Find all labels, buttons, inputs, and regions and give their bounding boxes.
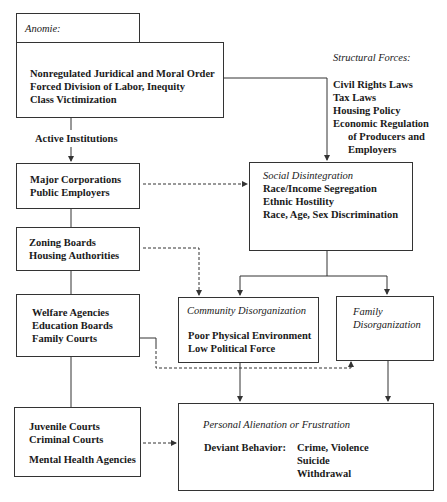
institution-lines: Welfare Agencies Education Boards Family…: [32, 306, 113, 345]
deviant-behavior-list: Crime, Violence Suicide Withdrawal: [297, 441, 369, 480]
personal-alienation-box: Personal Alienation or Frustration Devia…: [178, 403, 434, 491]
structural-force-item: Civil Rights Laws: [333, 78, 429, 91]
social-disintegration-item: Race, Age, Sex Discrimination: [263, 208, 398, 221]
structural-forces-list: Civil Rights Laws Tax Laws Housing Polic…: [333, 78, 429, 156]
social-disintegration-item: Ethnic Hostility: [263, 195, 398, 208]
institution-line: Criminal Courts: [29, 433, 136, 446]
social-disintegration-title: Social Disintegration: [263, 169, 353, 182]
structural-force-item: Employers: [333, 143, 429, 156]
deviant-item: Crime, Violence: [297, 441, 369, 454]
community-disorganization-title: Community Disorganization: [187, 304, 306, 317]
family-title-line: Family: [353, 305, 421, 318]
deviant-behavior-label: Deviant Behavior:: [204, 441, 286, 454]
institution-line: Zoning Boards: [29, 236, 119, 249]
institution-box-welfare: Welfare Agencies Education Boards Family…: [16, 294, 140, 357]
anomie-box: Nonregulated Juridical and Moral Order F…: [16, 42, 224, 118]
community-disorganization-lines: Poor Physical Environment Low Political …: [188, 329, 311, 355]
anomie-lines: Nonregulated Juridical and Moral Order F…: [30, 67, 215, 106]
social-disintegration-box: Social Disintegration Race/Income Segreg…: [249, 162, 413, 251]
anomie-label: Anomie:: [25, 22, 61, 35]
institution-lines: Juvenile Courts Criminal Courts Mental H…: [29, 420, 136, 466]
institution-line: Education Boards: [32, 319, 113, 332]
active-institutions-label: Active Institutions: [35, 132, 118, 145]
anomie-label-box: Anomie:: [16, 13, 140, 43]
structural-force-item: of Producers and: [333, 130, 429, 143]
institution-line: Juvenile Courts: [29, 420, 136, 433]
institution-lines: Major Corporations Public Employers: [30, 173, 121, 199]
personal-alienation-title: Personal Alienation or Frustration: [203, 418, 350, 431]
family-disorganization-box: Family Disorganization: [336, 296, 434, 361]
institution-box-corporations: Major Corporations Public Employers: [16, 163, 140, 209]
institution-line: Housing Authorities: [29, 249, 119, 262]
institution-box-courts: Juvenile Courts Criminal Courts Mental H…: [14, 407, 141, 477]
structural-force-item: Housing Policy: [333, 104, 429, 117]
structural-force-item: Tax Laws: [333, 91, 429, 104]
structural-force-item: Economic Regulation: [333, 117, 429, 130]
institution-line: Major Corporations: [30, 173, 121, 186]
institution-lines: Zoning Boards Housing Authorities: [29, 236, 119, 262]
anomie-line: Class Victimization: [30, 93, 215, 106]
social-disintegration-lines: Race/Income Segregation Ethnic Hostility…: [263, 182, 398, 221]
community-item: Poor Physical Environment: [188, 329, 311, 342]
community-disorganization-box: Community Disorganization Poor Physical …: [178, 297, 319, 363]
family-disorganization-title: Family Disorganization: [353, 305, 421, 331]
institution-box-zoning: Zoning Boards Housing Authorities: [16, 227, 140, 271]
anomie-line: Forced Division of Labor, Inequity: [30, 80, 215, 93]
deviant-item: Withdrawal: [297, 467, 369, 480]
anomie-line: Nonregulated Juridical and Moral Order: [30, 67, 215, 80]
institution-line: Public Employers: [30, 186, 121, 199]
social-disintegration-item: Race/Income Segregation: [263, 182, 398, 195]
community-item: Low Political Force: [188, 342, 311, 355]
deviant-item: Suicide: [297, 454, 369, 467]
structural-forces-label: Structural Forces:: [333, 51, 410, 64]
institution-line: Family Courts: [32, 332, 113, 345]
institution-line: Welfare Agencies: [32, 306, 113, 319]
family-title-line: Disorganization: [353, 318, 421, 331]
institution-line: Mental Health Agencies: [29, 453, 136, 466]
